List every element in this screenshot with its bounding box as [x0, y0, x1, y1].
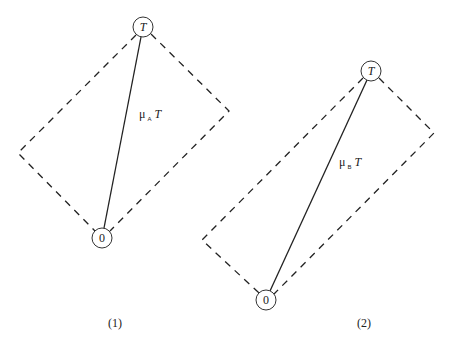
dashed-right-boundary-1 [110, 34, 229, 231]
var-T-2: T [354, 155, 362, 169]
var-T-1: T [154, 107, 162, 121]
diagram-canvas: T 0 μ A T (1) T 0 μ B T (2) [0, 0, 453, 348]
diagram-1: T 0 μ A T (1) [18, 17, 229, 330]
mu-symbol-1: μ [139, 107, 145, 121]
subscript-A: A [147, 116, 151, 122]
path-line-2 [270, 80, 367, 291]
edge-label-2: μ B T [339, 155, 362, 172]
dashed-left-boundary-2 [202, 78, 363, 293]
subscript-B: B [347, 164, 351, 170]
node-0-2-label: 0 [263, 293, 269, 307]
diagram-2: T 0 μ B T (2) [202, 61, 434, 330]
caption-2: (2) [357, 316, 371, 330]
path-line-1 [104, 37, 141, 228]
edge-label-1: μ A T [139, 107, 162, 124]
caption-1: (1) [108, 316, 122, 330]
dashed-right-boundary-2 [274, 78, 434, 294]
mu-symbol-2: μ [339, 155, 345, 169]
node-0-1-label: 0 [99, 231, 105, 245]
dashed-left-boundary-1 [18, 35, 136, 231]
